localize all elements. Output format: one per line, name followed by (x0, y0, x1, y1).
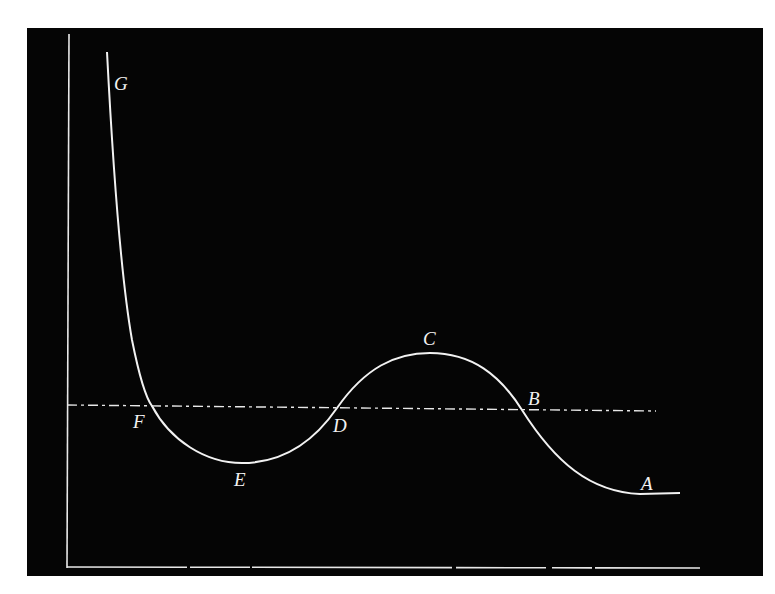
x-axis (67, 567, 700, 568)
label-g: G (114, 73, 128, 94)
potential-curve-diagram: G F E D C B A (0, 0, 775, 594)
label-c: C (423, 328, 436, 349)
label-b: B (528, 388, 540, 409)
label-e: E (233, 469, 246, 490)
label-d: D (332, 415, 347, 436)
energy-curve (107, 52, 680, 494)
label-f: F (132, 411, 145, 432)
label-a: A (639, 473, 653, 494)
y-axis (67, 34, 69, 568)
